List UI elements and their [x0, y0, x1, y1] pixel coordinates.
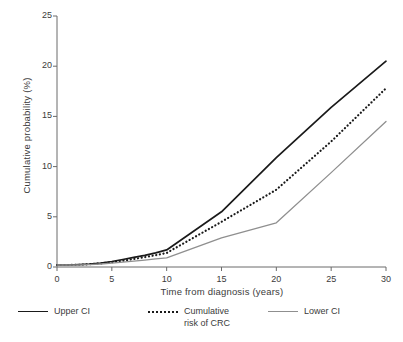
- x-tick-label: 30: [371, 274, 401, 284]
- legend-label: Cumulative risk of CRC: [184, 306, 230, 329]
- series-line-upper-ci: [57, 61, 386, 265]
- legend-label: Lower CI: [304, 306, 340, 318]
- data-series-group: [57, 61, 386, 265]
- legend-swatch-solid-dark-icon: [18, 306, 48, 317]
- y-axis-ticks: [53, 16, 57, 267]
- x-axis-ticks: [57, 267, 386, 271]
- legend-swatch-dotted-icon: [148, 306, 178, 317]
- x-tick-label: 25: [316, 274, 346, 284]
- x-tick-label: 20: [261, 274, 291, 284]
- y-tick-label: 25: [26, 10, 52, 20]
- x-tick-label: 15: [207, 274, 237, 284]
- axes: [57, 16, 386, 267]
- legend-label: Upper CI: [54, 306, 90, 318]
- legend-item-cumulative[interactable]: Cumulative risk of CRC: [148, 306, 230, 329]
- x-axis-title: Time from diagnosis (years): [57, 286, 387, 297]
- legend-item-lower-ci[interactable]: Lower CI: [268, 306, 340, 318]
- y-tick-label: 0: [26, 261, 52, 271]
- y-axis-title: Cumulative probability (%): [21, 46, 32, 226]
- series-line-lower-ci: [57, 121, 386, 265]
- cumulative-risk-chart: 0510152025 051015202530 Cumulative proba…: [0, 0, 403, 342]
- legend-item-upper-ci[interactable]: Upper CI: [18, 306, 90, 318]
- x-tick-label: 5: [97, 274, 127, 284]
- x-tick-label: 10: [152, 274, 182, 284]
- x-tick-label: 0: [42, 274, 72, 284]
- legend-swatch-solid-gray-icon: [268, 306, 298, 317]
